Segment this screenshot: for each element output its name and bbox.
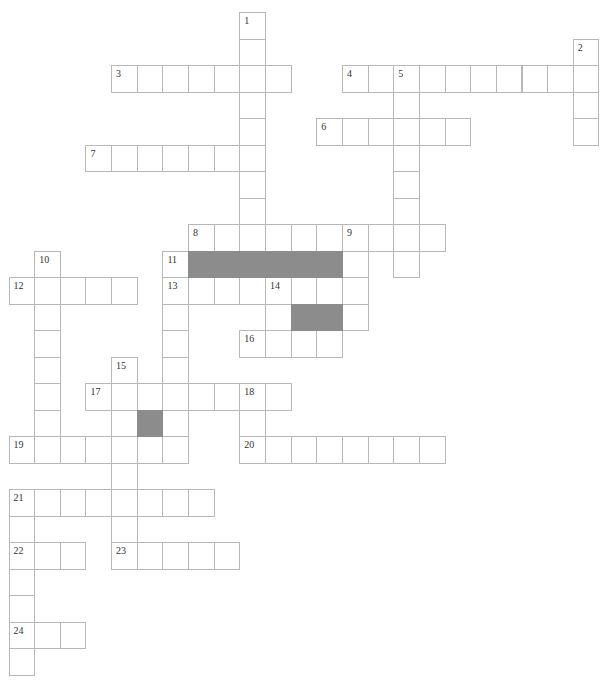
answer-cell[interactable]	[137, 489, 164, 517]
answer-cell[interactable]	[316, 277, 343, 305]
answer-cell[interactable]	[342, 304, 369, 332]
answer-cell[interactable]	[239, 145, 266, 173]
answer-cell[interactable]: 13	[162, 277, 189, 305]
answer-cell[interactable]	[9, 595, 36, 623]
answer-cell[interactable]	[214, 145, 241, 173]
answer-cell[interactable]: 3	[111, 65, 138, 93]
answer-cell[interactable]: 18	[239, 383, 266, 411]
answer-cell[interactable]	[9, 516, 36, 544]
answer-cell[interactable]	[239, 39, 266, 67]
answer-cell[interactable]	[162, 330, 189, 358]
answer-cell[interactable]	[34, 622, 61, 650]
answer-cell[interactable]	[573, 65, 600, 93]
answer-cell[interactable]	[342, 118, 369, 146]
answer-cell[interactable]: 10	[34, 251, 61, 279]
answer-cell[interactable]	[34, 383, 61, 411]
answer-cell[interactable]	[419, 118, 446, 146]
answer-cell[interactable]	[34, 542, 61, 570]
answer-cell[interactable]	[445, 118, 472, 146]
answer-cell[interactable]	[162, 357, 189, 385]
answer-cell[interactable]: 9	[342, 224, 369, 252]
answer-cell[interactable]	[239, 410, 266, 438]
answer-cell[interactable]	[162, 304, 189, 332]
answer-cell[interactable]	[368, 436, 395, 464]
answer-cell[interactable]	[137, 65, 164, 93]
answer-cell[interactable]: 1	[239, 12, 266, 40]
answer-cell[interactable]	[34, 330, 61, 358]
answer-cell[interactable]: 21	[9, 489, 36, 517]
answer-cell[interactable]	[393, 251, 420, 279]
answer-cell[interactable]	[34, 357, 61, 385]
answer-cell[interactable]	[111, 516, 138, 544]
answer-cell[interactable]	[162, 145, 189, 173]
answer-cell[interactable]	[342, 277, 369, 305]
answer-cell[interactable]: 20	[239, 436, 266, 464]
answer-cell[interactable]	[239, 118, 266, 146]
answer-cell[interactable]	[34, 304, 61, 332]
answer-cell[interactable]	[188, 65, 215, 93]
answer-cell[interactable]	[137, 145, 164, 173]
answer-cell[interactable]	[214, 542, 241, 570]
answer-cell[interactable]: 4	[342, 65, 369, 93]
answer-cell[interactable]	[470, 65, 497, 93]
answer-cell[interactable]	[34, 436, 61, 464]
answer-cell[interactable]	[239, 277, 266, 305]
answer-cell[interactable]	[111, 463, 138, 491]
answer-cell[interactable]: 11	[162, 251, 189, 279]
answer-cell[interactable]	[393, 92, 420, 120]
answer-cell[interactable]	[316, 436, 343, 464]
answer-cell[interactable]: 2	[573, 39, 600, 67]
answer-cell[interactable]	[265, 436, 292, 464]
answer-cell[interactable]	[342, 436, 369, 464]
answer-cell[interactable]	[162, 383, 189, 411]
answer-cell[interactable]	[393, 145, 420, 173]
answer-cell[interactable]	[162, 489, 189, 517]
answer-cell[interactable]	[368, 65, 395, 93]
answer-cell[interactable]: 14	[265, 277, 292, 305]
answer-cell[interactable]	[573, 118, 600, 146]
answer-cell[interactable]	[496, 65, 523, 93]
answer-cell[interactable]	[60, 436, 87, 464]
answer-cell[interactable]	[291, 224, 318, 252]
answer-cell[interactable]	[111, 410, 138, 438]
answer-cell[interactable]	[188, 277, 215, 305]
answer-cell[interactable]	[265, 65, 292, 93]
answer-cell[interactable]	[393, 171, 420, 199]
answer-cell[interactable]	[291, 277, 318, 305]
answer-cell[interactable]	[162, 542, 189, 570]
answer-cell[interactable]	[265, 304, 292, 332]
answer-cell[interactable]	[239, 92, 266, 120]
answer-cell[interactable]	[85, 436, 112, 464]
answer-cell[interactable]	[291, 436, 318, 464]
answer-cell[interactable]	[137, 542, 164, 570]
answer-cell[interactable]: 23	[111, 542, 138, 570]
answer-cell[interactable]: 22	[9, 542, 36, 570]
answer-cell[interactable]	[188, 383, 215, 411]
answer-cell[interactable]	[445, 65, 472, 93]
answer-cell[interactable]: 15	[111, 357, 138, 385]
answer-cell[interactable]	[547, 65, 574, 93]
answer-cell[interactable]: 8	[188, 224, 215, 252]
answer-cell[interactable]: 17	[85, 383, 112, 411]
answer-cell[interactable]	[214, 224, 241, 252]
answer-cell[interactable]	[239, 198, 266, 226]
answer-cell[interactable]	[239, 171, 266, 199]
answer-cell[interactable]	[291, 330, 318, 358]
answer-cell[interactable]	[419, 224, 446, 252]
answer-cell[interactable]	[342, 251, 369, 279]
answer-cell[interactable]: 6	[316, 118, 343, 146]
answer-cell[interactable]	[265, 224, 292, 252]
answer-cell[interactable]	[137, 436, 164, 464]
answer-cell[interactable]	[188, 145, 215, 173]
answer-cell[interactable]: 19	[9, 436, 36, 464]
answer-cell[interactable]	[419, 436, 446, 464]
answer-cell[interactable]	[522, 65, 549, 93]
answer-cell[interactable]	[214, 65, 241, 93]
answer-cell[interactable]	[393, 198, 420, 226]
answer-cell[interactable]	[214, 277, 241, 305]
answer-cell[interactable]	[265, 383, 292, 411]
answer-cell[interactable]	[111, 383, 138, 411]
answer-cell[interactable]	[111, 277, 138, 305]
answer-cell[interactable]	[85, 277, 112, 305]
answer-cell[interactable]	[393, 224, 420, 252]
